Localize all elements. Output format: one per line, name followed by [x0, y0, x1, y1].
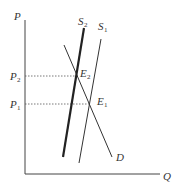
supply-curve-s2	[63, 28, 84, 157]
svg-text:1: 1	[104, 26, 108, 34]
price-label-p1: P 1	[9, 98, 21, 112]
svg-text:D: D	[115, 151, 124, 163]
svg-text:P: P	[9, 98, 17, 110]
curve-label-s1: S 1	[98, 20, 108, 34]
x-axis-label: Q	[163, 170, 171, 182]
svg-text:1: 1	[104, 101, 108, 109]
equilibrium-label-e1: E 1	[96, 95, 108, 109]
curve-label-s2: S 2	[78, 15, 88, 29]
svg-text:1: 1	[17, 104, 21, 112]
svg-text:2: 2	[84, 21, 88, 29]
supply-demand-diagram: P Q P 2 P 1 S 2 S 1 D E 2 E 1	[0, 0, 181, 191]
svg-text:E: E	[96, 95, 104, 107]
equilibrium-label-e2: E 2	[79, 67, 91, 81]
price-label-p2: P 2	[9, 70, 21, 84]
svg-text:2: 2	[87, 73, 91, 81]
svg-text:E: E	[79, 67, 87, 79]
curve-label-d: D	[115, 151, 124, 163]
y-axis-label: P	[13, 10, 21, 22]
svg-text:2: 2	[17, 76, 21, 84]
svg-text:P: P	[9, 70, 17, 82]
